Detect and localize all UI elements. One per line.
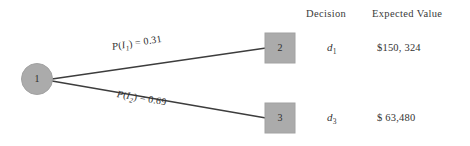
expected-value-cell-row-1: $150, 324 — [377, 42, 421, 53]
expected-value-cell-row-2: $ 63,480 — [377, 112, 415, 123]
column-header-decision: Decision — [306, 8, 346, 19]
tree-graphics — [0, 0, 470, 146]
decision-sub-row-1: 1 — [333, 47, 337, 56]
decision-sub-row-2: 3 — [333, 117, 337, 126]
decision-var-row-1: d — [327, 41, 333, 53]
decision-cell-row-2: d3 — [327, 111, 336, 123]
decision-node-3-label: 3 — [265, 113, 295, 123]
decision-cell-row-1: d1 — [327, 41, 336, 53]
decision-node-2-label: 2 — [265, 43, 295, 53]
decision-tree-diagram: 1 2 3 P(I1) = 0.31 P(I2) = 0.69 Decision… — [0, 0, 470, 146]
column-header-expected-value: Expected Value — [372, 8, 442, 19]
branch-line-upper — [52, 48, 266, 79]
decision-var-row-2: d — [327, 111, 333, 123]
chance-node-1-label: 1 — [22, 74, 52, 84]
